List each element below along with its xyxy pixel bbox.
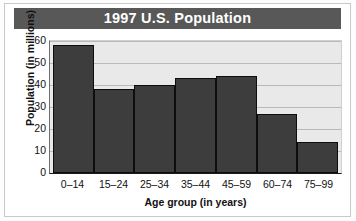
- x-tick-label: 0–14: [52, 178, 93, 190]
- y-tick-label: 10: [24, 145, 46, 156]
- x-tick-label: 15–24: [93, 178, 134, 190]
- x-axis-label: Age group (in years): [49, 196, 342, 208]
- bar-slot: [216, 41, 257, 173]
- chart-title-bar: 1997 U.S. Population: [14, 8, 341, 29]
- y-tick-label: 20: [24, 123, 46, 134]
- bar-slot: [175, 41, 216, 173]
- chart-figure: 1997 U.S. Population Population (in mill…: [0, 0, 356, 221]
- x-axis-tick-labels: 0–1415–2425–3435–4445–5960–7475–99: [49, 178, 342, 190]
- y-tick-label: 60: [24, 35, 46, 46]
- bar: [175, 78, 216, 173]
- bar-slot: [134, 41, 175, 173]
- bar-slot: [297, 41, 338, 173]
- bar: [94, 89, 135, 173]
- bar-slot: [257, 41, 298, 173]
- x-tick-label: 75–99: [298, 178, 339, 190]
- x-tick-label: 45–59: [216, 178, 257, 190]
- x-tick-label: 25–34: [134, 178, 175, 190]
- bar-series: [50, 41, 341, 173]
- y-tick-label: 0: [24, 167, 46, 178]
- bar: [134, 85, 175, 173]
- plot-area: [49, 40, 342, 174]
- y-axis-tick-labels: 0102030405060: [24, 34, 46, 178]
- x-tick-label: 35–44: [175, 178, 216, 190]
- bar-slot: [53, 41, 94, 173]
- y-tick-label: 40: [24, 79, 46, 90]
- y-tick-label: 30: [24, 101, 46, 112]
- bar: [257, 114, 298, 173]
- bar-slot: [94, 41, 135, 173]
- y-tick-label: 50: [24, 57, 46, 68]
- x-tick-label: 60–74: [257, 178, 298, 190]
- bar: [297, 142, 338, 173]
- bar: [53, 45, 94, 173]
- bar: [216, 76, 257, 173]
- chart-title: 1997 U.S. Population: [104, 11, 251, 26]
